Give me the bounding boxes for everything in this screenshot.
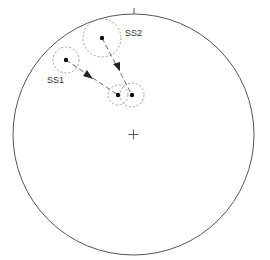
ss1-arrow-icon (83, 70, 93, 79)
ss1-label: SS1 (47, 75, 64, 85)
ss2-end-dot (130, 93, 134, 97)
stereonet-diagram: SS1 SS2 (0, 0, 270, 260)
center-cross-icon (129, 130, 139, 140)
ss2-label: SS2 (125, 28, 142, 38)
ss1-end-dot (116, 93, 120, 97)
ss1-start-dot (64, 58, 68, 62)
ss2-arrow-icon (113, 62, 120, 71)
ss2-start-dot (100, 36, 104, 40)
